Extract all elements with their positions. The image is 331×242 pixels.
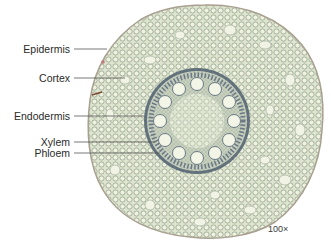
label-phloem: Phloem (34, 147, 70, 159)
magnification-label: 100× (268, 224, 288, 234)
stain-spot (101, 60, 105, 64)
label-epidermis: Epidermis (23, 43, 70, 55)
label-cortex: Cortex (39, 72, 70, 84)
label-endodermis: Endodermis (14, 110, 70, 122)
figure-frame: Epidermis Cortex Endodermis Xylem Phloem… (0, 0, 331, 242)
